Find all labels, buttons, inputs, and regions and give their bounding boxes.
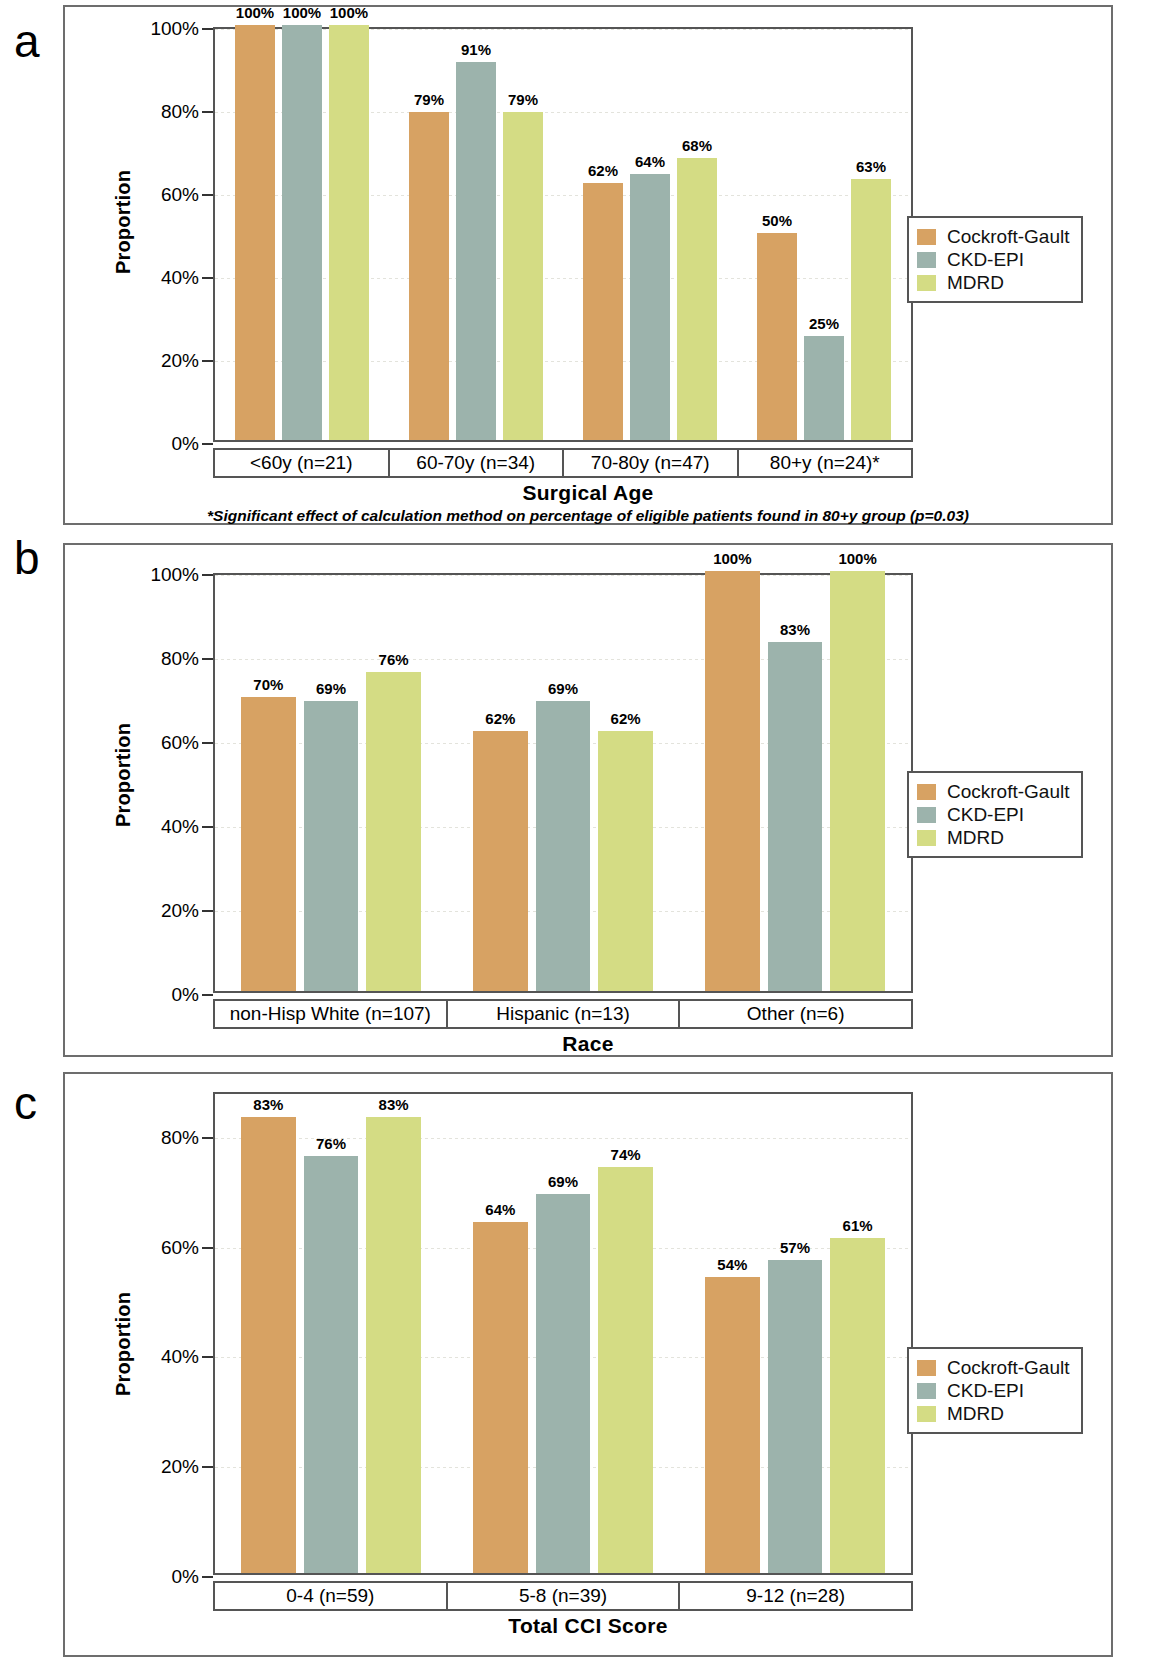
bar: 100% (235, 25, 276, 440)
y-axis-tick: 60% (161, 732, 215, 754)
bar-value-label: 74% (611, 1146, 641, 1163)
chart-a: Proportion 0%20%40%60%80%100%100%100%100… (65, 7, 1111, 523)
bar-value-label: 61% (843, 1217, 873, 1234)
panel-b: Proportion 0%20%40%60%80%100%70%69%76%62… (63, 543, 1113, 1057)
legend-label: CKD-EPI (947, 249, 1024, 271)
bar-value-label: 91% (461, 41, 491, 58)
legend-swatch-icon (917, 252, 936, 268)
bar: 100% (282, 25, 323, 440)
y-axis-tick: 60% (161, 184, 215, 206)
category-label: Other (n=6) (680, 1001, 911, 1027)
bar-value-label: 79% (508, 91, 538, 108)
y-axis-tick: 40% (161, 816, 215, 838)
bar: 25% (804, 336, 845, 440)
legend-swatch-icon (917, 784, 936, 800)
bar-value-label: 57% (780, 1239, 810, 1256)
legend-item[interactable]: MDRD (917, 271, 1069, 294)
bar: 76% (304, 1156, 359, 1573)
bar-value-label: 100% (838, 550, 876, 567)
legend-label: MDRD (947, 1403, 1004, 1425)
legend-b: Cockroft-GaultCKD-EPIMDRD (907, 771, 1083, 858)
bar-value-label: 100% (236, 4, 274, 21)
legend-item[interactable]: CKD-EPI (917, 803, 1069, 826)
y-axis-tick: 0% (172, 433, 215, 455)
y-axis-tick: 80% (161, 1127, 215, 1149)
legend-swatch-icon (917, 275, 936, 291)
x-axis-label-a: Surgical Age (65, 481, 1111, 505)
bar-value-label: 62% (611, 710, 641, 727)
y-axis-tick: 80% (161, 648, 215, 670)
legend-label: Cockroft-Gault (947, 1357, 1069, 1379)
x-axis-label-c: Total CCI Score (65, 1614, 1111, 1638)
y-axis-tick: 20% (161, 350, 215, 372)
bar: 64% (630, 174, 671, 440)
bar: 83% (241, 1117, 296, 1573)
y-axis-tick: 40% (161, 1346, 215, 1368)
legend-item[interactable]: MDRD (917, 826, 1069, 849)
bar: 61% (830, 1238, 885, 1573)
bar: 91% (456, 62, 497, 440)
y-axis-label-c: Proportion (112, 1292, 135, 1396)
bar-value-label: 83% (379, 1096, 409, 1113)
category-strip-a: <60y (n=21)60-70y (n=34)70-80y (n=47)80+… (213, 448, 913, 478)
y-axis-tick: 20% (161, 1456, 215, 1478)
legend-item[interactable]: CKD-EPI (917, 1379, 1069, 1402)
bar: 70% (241, 697, 296, 991)
bar-value-label: 100% (713, 550, 751, 567)
legend-item[interactable]: Cockroft-Gault (917, 780, 1069, 803)
plot-area-b: 0%20%40%60%80%100%70%69%76%62%69%62%100%… (213, 573, 913, 993)
legend-swatch-icon (917, 807, 936, 823)
bar-value-label: 76% (379, 651, 409, 668)
y-axis-tick: 0% (172, 1566, 215, 1588)
category-label: 9-12 (n=28) (680, 1583, 911, 1609)
figure-root: a Proportion 0%20%40%60%80%100%100%100%1… (0, 0, 1170, 1659)
bar-value-label: 76% (316, 1135, 346, 1152)
bar: 63% (851, 179, 892, 440)
bar: 62% (598, 731, 653, 991)
bar: 83% (768, 642, 823, 991)
category-label: Hispanic (n=13) (448, 1001, 681, 1027)
bar: 100% (329, 25, 370, 440)
bar: 69% (304, 701, 359, 991)
y-axis-tick: 80% (161, 101, 215, 123)
legend-swatch-icon (917, 830, 936, 846)
bar-value-label: 100% (330, 4, 368, 21)
y-axis-tick: 40% (161, 267, 215, 289)
legend-swatch-icon (917, 229, 936, 245)
legend-item[interactable]: CKD-EPI (917, 248, 1069, 271)
gridline (215, 575, 911, 576)
category-label: 70-80y (n=47) (564, 450, 739, 476)
bar: 69% (536, 1194, 591, 1573)
legend-item[interactable]: Cockroft-Gault (917, 1356, 1069, 1379)
category-label: non-Hisp White (n=107) (215, 1001, 448, 1027)
y-axis-label-b: Proportion (112, 723, 135, 827)
bar: 79% (409, 112, 450, 440)
y-axis-tick: 100% (150, 564, 215, 586)
panel-letter-b: b (14, 535, 40, 581)
footnote-a: *Significant effect of calculation metho… (65, 507, 1111, 525)
legend-label: MDRD (947, 827, 1004, 849)
legend-a: Cockroft-GaultCKD-EPIMDRD (907, 216, 1083, 303)
plot-area-a: 0%20%40%60%80%100%100%100%100%79%91%79%6… (213, 27, 913, 442)
legend-label: Cockroft-Gault (947, 781, 1069, 803)
legend-item[interactable]: Cockroft-Gault (917, 225, 1069, 248)
legend-swatch-icon (917, 1360, 936, 1376)
legend-item[interactable]: MDRD (917, 1402, 1069, 1425)
chart-c: Proportion 0%20%40%60%80%83%76%83%64%69%… (65, 1074, 1111, 1655)
bar: 69% (536, 701, 591, 991)
bar-value-label: 50% (762, 212, 792, 229)
legend-swatch-icon (917, 1383, 936, 1399)
bar-value-label: 64% (635, 153, 665, 170)
bar-value-label: 69% (548, 680, 578, 697)
category-label: 0-4 (n=59) (215, 1583, 448, 1609)
bar: 50% (757, 233, 798, 441)
plot-area-c: 0%20%40%60%80%83%76%83%64%69%74%54%57%61… (213, 1092, 913, 1575)
bar: 83% (366, 1117, 421, 1573)
x-axis-label-b: Race (65, 1032, 1111, 1056)
bar: 79% (503, 112, 544, 440)
category-label: 5-8 (n=39) (448, 1583, 681, 1609)
bar: 57% (768, 1260, 823, 1573)
bar: 62% (583, 183, 624, 440)
bar-value-label: 100% (283, 4, 321, 21)
bar: 100% (830, 571, 885, 991)
